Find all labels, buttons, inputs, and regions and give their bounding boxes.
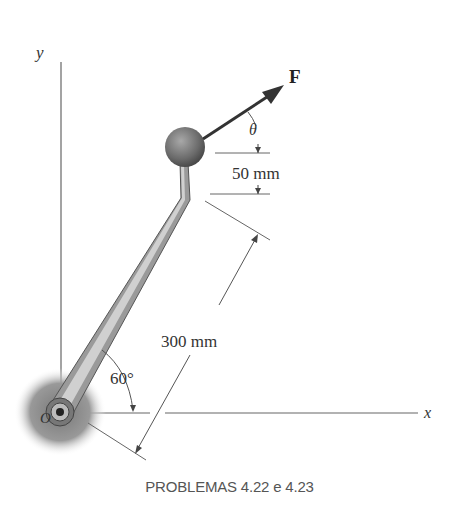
figure-caption: PROBLEMAS 4.22 e 4.23 <box>0 478 459 495</box>
force-arrow <box>203 85 284 139</box>
figure-canvas: y x O F θ 50 mm 300 mm 60° PROBLEMAS 4.2… <box>0 0 459 518</box>
ball-knob <box>165 127 205 167</box>
origin-label: O <box>40 410 51 426</box>
dimension-50mm-label: 50 mm <box>232 164 280 183</box>
dimension-300mm-label: 300 mm <box>161 332 217 351</box>
diagram-svg: y x O F θ 50 mm 300 mm 60° <box>0 0 459 518</box>
force-label: F <box>289 66 301 87</box>
x-axis-label: x <box>423 404 431 421</box>
angle-60-label: 60° <box>110 369 134 388</box>
theta-label: θ <box>249 121 257 138</box>
y-axis-label: y <box>34 43 44 62</box>
